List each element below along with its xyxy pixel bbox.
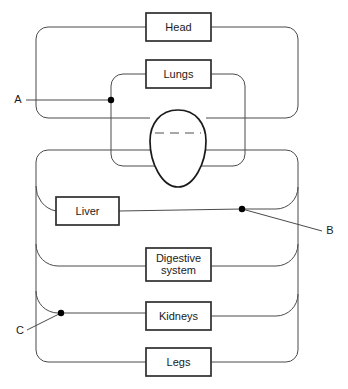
organ-label-kidneys: Kidneys (159, 310, 199, 322)
organ-box-kidneys[interactable]: Kidneys (146, 302, 211, 330)
vessel-lower-left-trunk (36, 150, 150, 362)
marker-b-group[interactable]: B (239, 206, 334, 236)
marker-b-label: B (326, 224, 333, 236)
vessel-head-to-right-trunk (206, 27, 298, 118)
organ-box-head[interactable]: Head (146, 13, 211, 41)
vessel-to-liver-inlet (36, 186, 56, 211)
organ-label-digestive-line2: system (161, 264, 196, 276)
marker-c-label: C (16, 324, 24, 336)
organ-label-legs: Legs (167, 356, 191, 368)
marker-b-leader-line (242, 209, 322, 231)
marker-c-group[interactable]: C (16, 310, 64, 336)
circulatory-diagram-canvas: A B C Head Lungs Liver Digestive (0, 0, 348, 389)
organ-box-lungs[interactable]: Lungs (146, 60, 211, 88)
heart-group (150, 110, 206, 187)
organ-box-liver[interactable]: Liver (56, 197, 119, 225)
marker-c-leader-line (27, 313, 61, 330)
vessel-head-to-left-trunk (36, 27, 150, 118)
marker-a-label: A (14, 93, 22, 105)
vessel-lower-right-trunk (206, 150, 298, 362)
organ-box-legs[interactable]: Legs (146, 348, 211, 376)
marker-a-dot[interactable] (108, 97, 114, 103)
organ-label-lungs: Lungs (164, 68, 194, 80)
organ-label-head: Head (165, 21, 191, 33)
circulatory-diagram: A B C Head Lungs Liver Digestive (0, 0, 348, 389)
organ-box-digestive-system[interactable]: Digestive system (146, 248, 211, 281)
vessel-digestive-outlet (211, 244, 298, 266)
marker-a-group[interactable]: A (14, 93, 114, 105)
vessel-kidneys-outlet (211, 294, 298, 316)
heart-outline-shape (150, 110, 206, 187)
organ-label-digestive-line1: Digestive (156, 252, 201, 264)
vessel-to-kidneys-inlet (36, 291, 146, 313)
marker-c-dot[interactable] (58, 310, 64, 316)
vessel-to-digestive-inlet (36, 244, 146, 266)
organ-label-liver: Liver (76, 205, 100, 217)
marker-b-dot[interactable] (239, 206, 245, 212)
vessel-liver-outlet (119, 187, 298, 211)
